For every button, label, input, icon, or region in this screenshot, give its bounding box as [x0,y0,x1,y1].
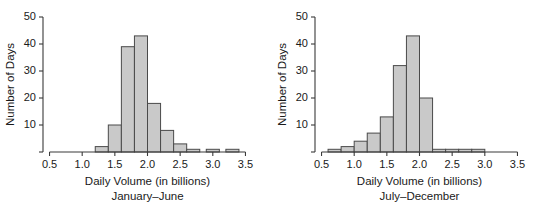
histogram-bar [174,144,187,152]
x-tick-label: 2.0 [412,158,427,170]
histogram-bar [367,133,380,152]
y-tick-label: 30 [296,64,308,76]
y-tick-label: 50 [24,10,36,22]
x-tick-label: 3.0 [477,158,492,170]
histogram-bar [121,47,134,152]
panel-subtitle: January–June [111,190,183,202]
x-tick-label: 3.5 [510,158,525,170]
histogram-bar [108,125,121,152]
chart-svg-july-december: 10203040500.51.01.52.02.53.03.5Daily Vol… [272,0,544,216]
histogram-bar [420,98,433,152]
y-axis-title: Number of Days [276,43,288,126]
chart-svg-january-june: 10203040500.51.01.52.02.53.03.5Daily Vol… [0,0,272,216]
histogram-bar [134,36,147,152]
histogram-bar [354,141,367,152]
x-tick-label: 1.0 [347,158,362,170]
x-tick-label: 1.0 [75,158,90,170]
histogram-figure: 10203040500.51.01.52.02.53.03.5Daily Vol… [0,0,544,216]
x-axis-title: Daily Volume (in billions) [85,175,210,187]
y-tick-label: 50 [296,10,308,22]
y-tick-label: 10 [24,118,36,130]
histogram-bar [380,117,393,152]
x-tick-label: 3.5 [238,158,253,170]
y-tick-label: 40 [296,37,308,49]
histogram-bar [148,103,161,152]
x-tick-label: 1.5 [107,158,122,170]
x-tick-label: 0.5 [42,158,57,170]
y-tick-label: 30 [24,64,36,76]
x-tick-label: 1.5 [379,158,394,170]
x-tick-label: 2.5 [173,158,188,170]
x-tick-label: 0.5 [314,158,329,170]
y-tick-label: 10 [296,118,308,130]
panel-subtitle: July–December [380,190,460,202]
x-tick-label: 2.5 [445,158,460,170]
y-axis-title: Number of Days [4,43,16,126]
histogram-bar [95,147,108,152]
histogram-bar [341,147,354,152]
x-axis-title: Daily Volume (in billions) [357,175,482,187]
y-tick-label: 20 [24,91,36,103]
x-tick-label: 2.0 [140,158,155,170]
histogram-bar [406,36,419,152]
x-tick-label: 3.0 [205,158,220,170]
histogram-bar [393,66,406,152]
y-tick-label: 40 [24,37,36,49]
chart-panel-july-december: 10203040500.51.01.52.02.53.03.5Daily Vol… [272,0,544,216]
histogram-bar [161,130,174,152]
y-tick-label: 20 [296,91,308,103]
chart-panel-january-june: 10203040500.51.01.52.02.53.03.5Daily Vol… [0,0,272,216]
